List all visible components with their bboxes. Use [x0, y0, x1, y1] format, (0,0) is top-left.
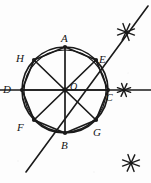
arc-intersection-marks	[117, 24, 139, 172]
point-label-E: E	[99, 54, 106, 65]
upper-right-arc-intersection	[118, 24, 135, 41]
point-label-C: C	[106, 93, 113, 103]
point-label-B: B	[61, 140, 68, 151]
vertex-dot-E	[94, 58, 98, 62]
point-label-F: F	[17, 122, 24, 133]
vertex-dot-G	[94, 118, 98, 122]
point-label-G: G	[93, 127, 101, 138]
point-label-H: H	[16, 53, 24, 64]
lower-right-arc-intersection	[123, 155, 140, 172]
point-label-D: D	[3, 84, 11, 95]
vertex-dot-A	[63, 45, 67, 49]
vertex-dot-B	[63, 131, 67, 135]
vertex-dot-D	[20, 88, 24, 92]
geometry-figure: In ⊙O, draw diameter AB. ABCDEFGHO	[0, 0, 151, 183]
point-label-A: A	[61, 33, 68, 44]
vertex-dot-H	[32, 58, 36, 62]
vertex-dot-F	[32, 118, 36, 122]
vertex-dot-O	[63, 88, 68, 93]
point-label-O: O	[70, 82, 77, 92]
